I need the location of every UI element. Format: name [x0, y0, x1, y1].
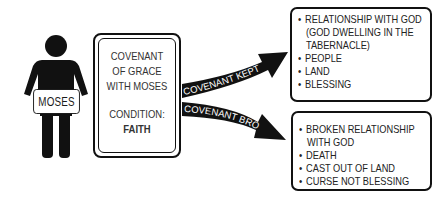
outcome-item: RELATIONSHIP WITH GOD — [298, 13, 409, 26]
covenant-broken-outcomes: BROKEN RELATIONSHIP WITH GOD DEATH CAST … — [291, 111, 432, 191]
covenant-kept-arrow-icon: COVENANT KEPT — [182, 52, 288, 98]
outcome-item-continued: (GOD DWELLING IN THE — [298, 26, 409, 39]
outcome-item-continued: WITH GOD — [299, 136, 409, 149]
covenant-kept-label: COVENANT KEPT — [182, 62, 261, 97]
outcome-item: LAND — [298, 65, 409, 78]
outcome-item: PEOPLE — [298, 52, 409, 65]
outcome-item: DEATH — [299, 149, 409, 162]
covenant-kept-outcomes: RELATIONSHIP WITH GOD (GOD DWELLING IN T… — [290, 7, 432, 102]
outcome-item: BROKEN RELATIONSHIP — [299, 123, 409, 136]
outcome-item: BLESSING — [298, 78, 409, 91]
outcome-item-continued: TABERNACLE) — [298, 39, 409, 52]
covenant-broken-label: COVENANT BROKEN — [0, 0, 261, 131]
outcome-item: CURSE NOT BLESSING — [299, 175, 409, 188]
outcome-item: CAST OUT OF LAND — [299, 162, 409, 175]
